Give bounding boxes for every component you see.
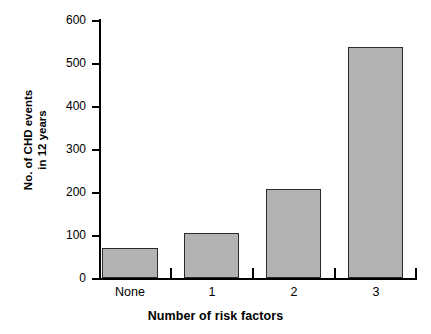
x-tick-label-3: 3 — [346, 285, 406, 299]
y-tick-mark-500 — [92, 63, 100, 65]
y-tick-label-500-wrap: 500 — [42, 57, 86, 69]
x-tick-mark-1 — [170, 268, 172, 280]
y-tick-mark-300 — [92, 149, 100, 151]
x-tick-label-2: 2 — [264, 285, 324, 299]
x-axis-title: Number of risk factors — [0, 309, 431, 323]
y-tick-label-500: 500 — [42, 57, 86, 69]
y-tick-label-400-wrap: 400 — [42, 100, 86, 112]
y-tick-mark-100 — [92, 235, 100, 237]
y-tick-mark-200 — [92, 192, 100, 194]
y-axis-title-line-1: No. of CHD events — [21, 90, 35, 190]
y-tick-label-100: 100 — [42, 229, 86, 241]
x-axis-line — [99, 278, 417, 280]
y-tick-mark-400 — [92, 106, 100, 108]
x-tick-mark-2 — [252, 268, 254, 280]
x-tick-mark-4 — [415, 268, 417, 280]
x-tick-label-none: None — [100, 285, 160, 299]
y-tick-label-0-wrap: 0 — [42, 272, 86, 284]
y-tick-label-0: 0 — [42, 272, 86, 284]
y-tick-label-100-wrap: 100 — [42, 229, 86, 241]
x-tick-mark-3 — [334, 268, 336, 280]
y-tick-label-300-wrap: 300 — [42, 143, 86, 155]
bar-2 — [266, 189, 321, 278]
y-tick-label-400: 400 — [42, 100, 86, 112]
bar-1 — [184, 233, 239, 278]
y-tick-label-600: 600 — [42, 14, 86, 26]
bar-chart: No. of CHD events in 12 years 0 100 200 … — [0, 0, 431, 334]
y-tick-label-300: 300 — [42, 143, 86, 155]
bar-none — [102, 248, 158, 278]
y-tick-label-200-wrap: 200 — [42, 186, 86, 198]
bar-3 — [348, 47, 403, 278]
y-tick-label-600-wrap: 600 — [42, 14, 86, 26]
x-tick-label-1: 1 — [182, 285, 242, 299]
y-tick-mark-600 — [92, 20, 100, 22]
y-tick-label-200: 200 — [42, 186, 86, 198]
y-tick-mark-0 — [92, 278, 100, 280]
